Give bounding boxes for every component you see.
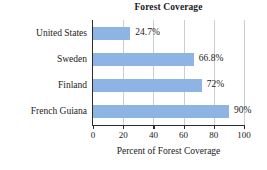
x-tick-label: 100	[237, 130, 251, 140]
x-tick-mark	[93, 125, 94, 129]
bar-value-label: 24.7%	[135, 26, 160, 39]
x-tick-label: 60	[179, 130, 188, 140]
x-tick-label: 0	[91, 130, 96, 140]
chart-title: Forest Coverage	[93, 2, 244, 12]
bar	[93, 27, 130, 40]
category-label: United States	[2, 27, 87, 40]
x-tick-mark	[214, 125, 215, 129]
category-label: French Guiana	[2, 105, 87, 118]
bar-value-label: 66.8%	[199, 52, 224, 65]
bar-row: 66.8%	[93, 53, 244, 66]
bar	[93, 105, 229, 118]
x-tick-mark	[153, 125, 154, 129]
y-axis-line	[92, 20, 93, 125]
bar-value-label: 72%	[207, 78, 224, 91]
plot-area: 24.7%66.8%72%90%	[93, 20, 244, 125]
category-label: Finland	[2, 79, 87, 92]
category-label: Sweden	[2, 53, 87, 66]
bar	[93, 53, 194, 66]
bar	[93, 79, 202, 92]
bar-row: 90%	[93, 105, 244, 118]
forest-coverage-bar-chart: Forest Coverage 24.7%66.8%72%90% Percent…	[0, 0, 267, 170]
bar-row: 24.7%	[93, 27, 244, 40]
x-axis-title: Percent of Forest Coverage	[93, 146, 244, 156]
bar-row: 72%	[93, 79, 244, 92]
x-tick-mark	[244, 125, 245, 129]
x-tick-mark	[123, 125, 124, 129]
x-axis-line	[92, 125, 244, 126]
x-tick-label: 40	[149, 130, 158, 140]
x-tick-label: 80	[209, 130, 218, 140]
x-tick-mark	[184, 125, 185, 129]
bar-value-label: 90%	[234, 104, 251, 117]
x-tick-label: 20	[119, 130, 128, 140]
